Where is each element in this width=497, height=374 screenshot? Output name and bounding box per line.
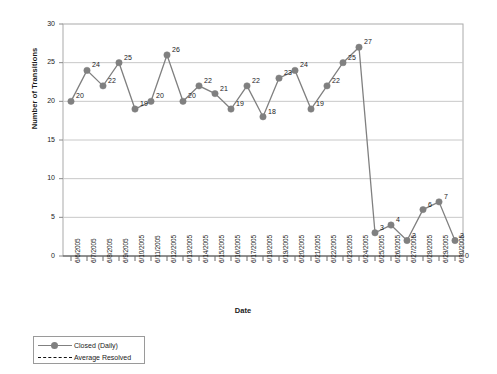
- data-point-label: 21: [220, 85, 228, 92]
- y-axis-tick-label: 20: [33, 97, 55, 104]
- x-axis-tick-label: 6/21/2005: [314, 235, 321, 263]
- chart-container: Number of Transitions Date 0510152025300…: [0, 0, 497, 374]
- data-point-label: 22: [332, 77, 340, 84]
- data-point-label: 2: [412, 232, 416, 239]
- x-axis-tick-label: 6/24/2005: [362, 235, 369, 263]
- y-axis-tick-label: 15: [33, 136, 55, 143]
- x-axis-tick-label: 6/13/2005: [186, 235, 193, 263]
- x-axis-tick-label: 6/15/2005: [218, 235, 225, 263]
- data-point-label: 19: [236, 100, 244, 107]
- x-axis-tick-label: 6/11/2005: [154, 235, 161, 263]
- legend-item-closed-daily: Closed (Daily): [38, 339, 118, 351]
- data-point-label: 25: [124, 54, 132, 61]
- y-axis-tick-label: 25: [33, 58, 55, 65]
- plot-area: [0, 0, 497, 374]
- x-axis-tick-label: 6/7/2005: [90, 238, 97, 263]
- x-axis-tick-label: 6/8/2005: [106, 238, 113, 263]
- x-axis-tick-label: 6/26/2005: [394, 235, 401, 263]
- legend-key-dashed-line: [38, 352, 72, 362]
- data-point-label: 24: [300, 61, 308, 68]
- data-point-label: 27: [364, 38, 372, 45]
- x-axis-tick-label: 6/18/2005: [266, 235, 273, 263]
- x-axis-tick-label: 6/9/2005: [122, 238, 129, 263]
- data-point-label: 22: [108, 77, 116, 84]
- x-axis-tick-label: 6/29/2005: [442, 235, 449, 263]
- chart-legend: Closed (Daily) Average Resolved: [33, 336, 145, 364]
- data-point-label: 20: [188, 92, 196, 99]
- data-point-label: 23: [284, 69, 292, 76]
- x-axis-tick-label: 6/27/2005: [410, 235, 417, 263]
- data-point-label: 6: [428, 201, 432, 208]
- x-axis-tick-label: 6/16/2005: [234, 235, 241, 263]
- data-point-label: 20: [76, 92, 84, 99]
- x-axis-tick-label: 6/20/2005: [298, 235, 305, 263]
- data-point-label: 19: [140, 100, 148, 107]
- x-axis-tick-label: 6/14/2005: [202, 235, 209, 263]
- data-point-label: 22: [204, 77, 212, 84]
- data-point-label: 25: [348, 54, 356, 61]
- x-axis-tick-label: 6/28/2005: [426, 235, 433, 263]
- legend-label-average-resolved: Average Resolved: [74, 354, 131, 361]
- x-axis-tick-label: 6/12/2005: [170, 235, 177, 263]
- data-point-label: 2: [460, 232, 464, 239]
- x-axis-tick-label: 6/17/2005: [250, 235, 257, 263]
- y-axis-tick-label: 0: [33, 252, 55, 259]
- data-point-label: 24: [92, 61, 100, 68]
- data-point-label: 4: [396, 216, 400, 223]
- data-point-label: 26: [172, 46, 180, 53]
- y-axis-tick-label: 5: [33, 213, 55, 220]
- data-point-label: 3: [380, 224, 384, 231]
- y-axis-tick-label: 30: [33, 20, 55, 27]
- data-point-label: 18: [268, 108, 276, 115]
- data-point-label: 20: [156, 92, 164, 99]
- x-axis-tick-label: 6/19/2005: [282, 235, 289, 263]
- data-point-label: 7: [444, 193, 448, 200]
- legend-key-solid-line-marker: [38, 340, 72, 350]
- x-axis-tick-label: 6/10/2005: [138, 235, 145, 263]
- x-axis-tick-label: 6/22/2005: [330, 235, 337, 263]
- x-axis-tick-label: 6/6/2005: [74, 238, 81, 263]
- legend-item-average-resolved: Average Resolved: [38, 351, 131, 363]
- x-axis-tick-label: 6/25/2005: [378, 235, 385, 263]
- y-axis-tick-label-right-zero: 0: [465, 252, 487, 259]
- legend-label-closed-daily: Closed (Daily): [74, 342, 118, 349]
- data-point-label: 19: [316, 100, 324, 107]
- x-axis-tick-label: 6/23/2005: [346, 235, 353, 263]
- data-point-label: 22: [252, 77, 260, 84]
- x-axis-tick-label: 6/30/2005: [458, 235, 465, 263]
- y-axis-tick-label: 10: [33, 174, 55, 181]
